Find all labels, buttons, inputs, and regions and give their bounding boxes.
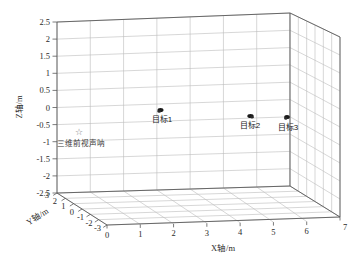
- scatter-3d-chart: 2.5 2 1.5 1 0.5 0 -0.5 -1 -1.5 -2 -2.5 Z…: [0, 0, 364, 272]
- x-tick-label: 3: [205, 228, 209, 238]
- z-tick-label: -2: [43, 171, 50, 181]
- svg-text:☆: ☆: [75, 127, 83, 137]
- z-tick-label: 1.5: [39, 51, 50, 61]
- target3-label: 目标3: [278, 122, 299, 132]
- x-tick-label: 4: [238, 227, 243, 237]
- target1-label: 目标1: [152, 114, 173, 124]
- z-tick-label: -1.5: [37, 154, 50, 164]
- z-axis: 2.5 2 1.5 1 0.5 0 -0.5 -1 -1.5 -2 -2.5 Z…: [14, 17, 57, 198]
- z-tick-label: 0.5: [39, 85, 50, 95]
- y-tick-label: 0: [70, 207, 74, 217]
- y-axis-label: Y轴/m: [25, 206, 51, 227]
- x-tick-label: 0: [105, 230, 109, 240]
- sonar-star-marker[interactable]: ☆: [75, 127, 83, 137]
- sonar-label: 三维前视声呐: [57, 138, 105, 148]
- right-wall-plane: [290, 13, 340, 217]
- y-tick-label: 3: [45, 190, 49, 200]
- z-tick-marks: [53, 22, 58, 193]
- y-tick-label: 2: [53, 196, 57, 206]
- back-wall-plane: [57, 13, 290, 193]
- z-tick-label: -1: [43, 137, 50, 147]
- y-tick-label: 1: [61, 201, 65, 211]
- x-tick-label: 2: [171, 228, 175, 238]
- z-tick-label: 0: [46, 103, 50, 113]
- y-tick-label: -1: [77, 212, 84, 222]
- y-tick-label: -3: [94, 223, 101, 233]
- target2-label: 目标2: [240, 120, 261, 130]
- x-tick-label: 5: [271, 227, 275, 237]
- z-tick-label: 2.5: [39, 17, 50, 27]
- x-axis-label: X轴/m: [211, 243, 236, 253]
- x-tick-label: 1: [138, 229, 142, 239]
- z-tick-label: 1: [46, 68, 50, 78]
- z-axis-label: Z轴/m: [14, 95, 24, 119]
- z-tick-label: 2: [46, 34, 50, 44]
- y-tick-label: -2: [85, 218, 92, 228]
- x-tick-label: 6: [305, 226, 309, 236]
- x-tick-label: 7: [343, 222, 347, 232]
- z-tick-label: -0.5: [37, 120, 50, 130]
